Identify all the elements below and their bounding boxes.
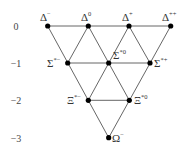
label-delta-minus: Δ− xyxy=(40,10,51,23)
axis-label-minus3: −3 xyxy=(11,133,22,144)
decuplet-diagram: 0 −1 −2 −3 Δ− Δ0 Δ+ Δ++ xyxy=(0,0,185,154)
particle-nodes xyxy=(45,23,173,140)
particle-labels: Δ− Δ0 Δ+ Δ++ Σ*− Σ*0 Σ*+ Ξ*− Ξ*0 Ω− xyxy=(40,10,177,144)
axis-label-minus1: −1 xyxy=(11,58,22,69)
axis-label-minus2: −2 xyxy=(11,95,22,106)
label-delta-plus: Δ+ xyxy=(122,10,133,23)
node-delta-plusplus xyxy=(168,23,173,28)
label-sigma-star-plus: Σ*+ xyxy=(154,56,168,69)
label-omega-minus: Ω− xyxy=(112,131,124,144)
node-omega-minus xyxy=(106,135,111,140)
node-sigma-star-minus xyxy=(65,60,70,65)
lattice-edges xyxy=(48,26,171,138)
node-sigma-star-zero xyxy=(106,60,111,65)
diag-edge xyxy=(109,26,171,138)
label-delta-plusplus: Δ++ xyxy=(162,10,177,23)
node-delta-zero xyxy=(86,23,91,28)
axis-label-0: 0 xyxy=(14,21,19,32)
label-xi-star-zero: Ξ*0 xyxy=(134,93,148,106)
label-delta-zero: Δ0 xyxy=(81,10,91,23)
diag-edge xyxy=(129,26,150,63)
diag-edge xyxy=(68,26,89,63)
strangeness-axis: 0 −1 −2 −3 xyxy=(11,21,22,144)
node-delta-minus xyxy=(45,23,50,28)
node-sigma-star-plus xyxy=(147,60,152,65)
node-delta-plus xyxy=(126,23,131,28)
node-xi-star-minus xyxy=(86,98,91,103)
label-sigma-star-minus: Σ*− xyxy=(47,56,61,69)
label-sigma-star-zero: Σ*0 xyxy=(113,48,126,61)
node-xi-star-zero xyxy=(127,98,132,103)
diag-edge xyxy=(48,26,109,138)
label-xi-star-minus: Ξ*− xyxy=(67,93,81,106)
